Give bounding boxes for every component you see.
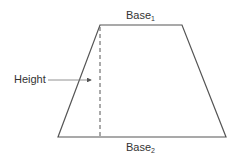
- trapezoid-shape: [58, 25, 226, 137]
- base2-text: Base: [126, 141, 151, 153]
- base1-subscript: 1: [151, 15, 155, 22]
- height-label: Height: [14, 74, 46, 85]
- base1-label: Base1: [126, 10, 155, 22]
- base2-subscript: 2: [151, 147, 155, 154]
- base2-label: Base2: [126, 142, 155, 154]
- base1-text: Base: [126, 9, 151, 21]
